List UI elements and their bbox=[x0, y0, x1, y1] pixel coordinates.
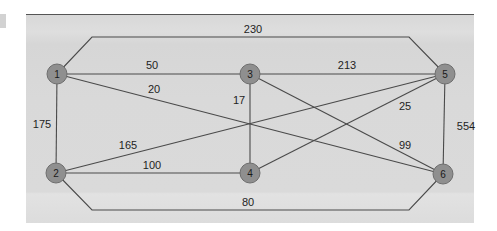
edges-layer bbox=[56, 37, 445, 210]
edge-weight-3-6: 99 bbox=[399, 139, 411, 151]
node-label: 3 bbox=[247, 69, 253, 80]
edge-weight-1-5: 230 bbox=[244, 23, 262, 35]
edge-weight-2-6: 80 bbox=[242, 196, 254, 208]
node-5: 5 bbox=[435, 64, 455, 84]
edge-weight-3-5: 213 bbox=[338, 59, 356, 71]
node-label: 6 bbox=[440, 169, 446, 180]
edge-5-6 bbox=[443, 74, 445, 174]
graph-diagram: 230502017521317991652510055480 123456 bbox=[0, 0, 497, 231]
node-label: 2 bbox=[53, 168, 59, 179]
edge-weight-3-4: 17 bbox=[233, 94, 245, 106]
edge-weight-1-6: 20 bbox=[148, 83, 160, 95]
edge-1-2 bbox=[56, 74, 57, 173]
edge-weight-2-4: 100 bbox=[143, 159, 161, 171]
edge-weight-4-5: 25 bbox=[399, 100, 411, 112]
edge-weight-2-5: 165 bbox=[119, 139, 137, 151]
edge-weight-1-3: 50 bbox=[146, 59, 158, 71]
node-4: 4 bbox=[240, 163, 260, 183]
edge-weight-5-6: 554 bbox=[457, 120, 475, 132]
node-3: 3 bbox=[240, 64, 260, 84]
node-label: 1 bbox=[54, 69, 60, 80]
edge-weight-1-2: 175 bbox=[33, 118, 51, 130]
node-2: 2 bbox=[46, 163, 66, 183]
node-6: 6 bbox=[433, 164, 453, 184]
node-label: 4 bbox=[247, 168, 253, 179]
node-1: 1 bbox=[47, 64, 67, 84]
node-label: 5 bbox=[442, 69, 448, 80]
